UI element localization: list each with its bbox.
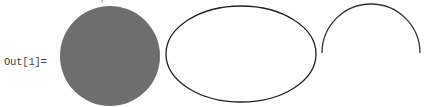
filled-disk xyxy=(60,6,160,106)
ellipse-outline xyxy=(166,6,316,102)
semicircle-arc xyxy=(322,4,420,53)
graphics-output xyxy=(0,0,426,107)
